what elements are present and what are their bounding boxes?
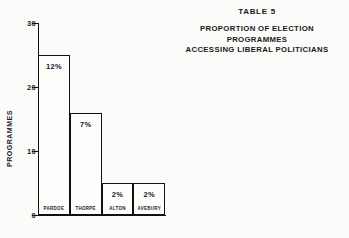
bar-label-alton: ALTON bbox=[103, 206, 133, 212]
bar-value-alton: 2% bbox=[103, 190, 133, 199]
plot-area: PROGRAMMES 0 10 20 30 12% PARDOE 7% THOR… bbox=[0, 0, 349, 238]
y-tick-label-30: 30 bbox=[6, 19, 36, 28]
bar-label-pardoe: PARDOE bbox=[39, 206, 69, 212]
bar-pardoe: 12% PARDOE bbox=[38, 55, 70, 215]
chart-figure: TABLE 5 PROPORTION OF ELECTION PROGRAMME… bbox=[0, 0, 349, 238]
bar-value-thorpe: 7% bbox=[71, 120, 101, 129]
y-tick-label-10: 10 bbox=[6, 147, 36, 156]
bar-avebury: 2% AVEBURY bbox=[133, 183, 165, 215]
bar-value-avebury: 2% bbox=[134, 190, 164, 199]
bar-label-avebury: AVEBURY bbox=[134, 206, 164, 212]
bar-value-pardoe: 12% bbox=[39, 62, 69, 71]
bar-thorpe: 7% THORPE bbox=[70, 113, 102, 215]
y-tick-label-20: 20 bbox=[6, 83, 36, 92]
bar-label-thorpe: THORPE bbox=[71, 206, 101, 212]
bar-alton: 2% ALTON bbox=[102, 183, 134, 215]
y-tick-label-0: 0 bbox=[6, 211, 36, 220]
y-axis-label: PROGRAMMES bbox=[6, 94, 13, 184]
